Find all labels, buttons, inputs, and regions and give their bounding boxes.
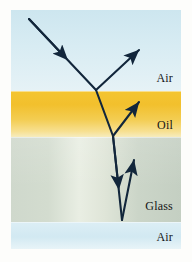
optics-figure: Air Oil Glass Air: [0, 0, 192, 262]
reflected-ray-air: [96, 50, 139, 90]
incident-ray-arrow-segment: [29, 19, 63, 55]
layer-label-air-bottom: Air: [156, 231, 173, 244]
ray-paths: [11, 10, 181, 249]
layer-label-glass: Glass: [145, 200, 173, 213]
refracted-ray-oil: [96, 90, 113, 136]
refracted-ray-glass-arrow-segment: [113, 136, 118, 182]
diagram-stage: Air Oil Glass Air: [11, 10, 181, 249]
layer-label-oil: Oil: [157, 119, 173, 132]
reflected-ray-oil: [113, 102, 139, 136]
reflected-ray-glass: [122, 160, 134, 220]
layer-label-air-top: Air: [156, 72, 173, 85]
